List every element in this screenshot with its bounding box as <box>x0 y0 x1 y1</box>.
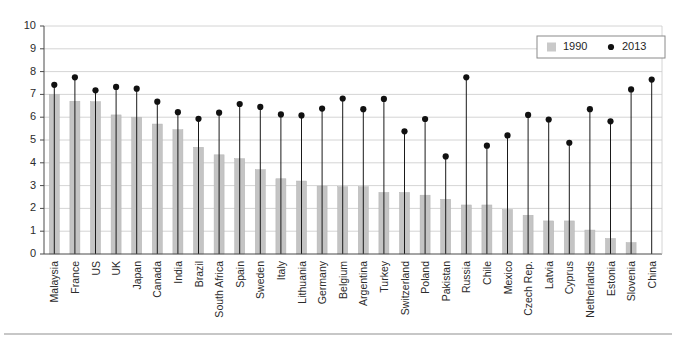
x-tick-label-italy: Italy <box>275 260 287 280</box>
data-point-2013 <box>566 140 572 146</box>
stems-group <box>54 77 651 254</box>
y-tick-label: 7 <box>30 87 36 99</box>
data-point-2013 <box>113 84 119 90</box>
data-point-2013 <box>51 82 57 88</box>
y-tick-label: 2 <box>30 201 36 213</box>
data-point-2013 <box>381 96 387 102</box>
stem-and-bar-chart: 109876543210 MalaysiaFranceUSUKJapanCana… <box>0 0 676 341</box>
x-tick-label-slovenia: Slovenia <box>625 261 637 301</box>
x-tick-label-us: US <box>90 261 102 276</box>
x-axis-ticks: MalaysiaFranceUSUKJapanCanadaIndiaBrazil… <box>48 260 657 317</box>
x-tick-label-czech-rep: Czech Rep. <box>522 261 534 316</box>
data-point-2013 <box>525 112 531 118</box>
data-point-2013 <box>237 101 243 107</box>
data-point-2013 <box>360 106 366 112</box>
x-tick-label-france: France <box>69 261 81 294</box>
data-point-2013 <box>443 153 449 159</box>
data-point-2013 <box>175 109 181 115</box>
data-point-2013 <box>134 86 140 92</box>
x-tick-label-latvia: Latvia <box>543 261 555 289</box>
y-axis-ticks: 109876543210 <box>24 19 44 259</box>
x-tick-label-canada: Canada <box>151 261 163 298</box>
data-point-2013 <box>257 104 263 110</box>
x-tick-label-lithuania: Lithuania <box>296 261 308 304</box>
x-tick-label-estonia: Estonia <box>605 261 617 296</box>
data-point-2013 <box>484 143 490 149</box>
x-tick-label-argentina: Argentina <box>357 261 369 306</box>
x-tick-label-india: India <box>172 261 184 284</box>
data-point-2013 <box>607 118 613 124</box>
x-tick-label-turkey: Turkey <box>378 260 390 292</box>
x-tick-label-switzerland: Switzerland <box>399 261 411 315</box>
data-point-2013 <box>587 106 593 112</box>
data-point-2013 <box>72 74 78 80</box>
data-point-2013 <box>401 128 407 134</box>
x-tick-label-germany: Germany <box>316 260 328 304</box>
x-tick-label-sweden: Sweden <box>254 261 266 299</box>
data-point-2013 <box>649 76 655 82</box>
x-tick-label-netherlands: Netherlands <box>584 261 596 318</box>
x-tick-label-cyprus: Cyprus <box>563 261 575 294</box>
y-tick-label: 4 <box>30 156 36 168</box>
y-tick-label: 10 <box>24 19 36 31</box>
x-tick-label-poland: Poland <box>419 261 431 294</box>
legend-label-1990: 1990 <box>563 40 587 52</box>
chart-container: 109876543210 MalaysiaFranceUSUKJapanCana… <box>0 0 676 341</box>
legend-swatch-1990 <box>547 43 556 52</box>
x-tick-label-brazil: Brazil <box>193 261 205 287</box>
y-tick-label: 3 <box>30 179 36 191</box>
data-point-2013 <box>504 132 510 138</box>
x-tick-label-south-africa: South Africa <box>213 261 225 318</box>
data-point-2013 <box>92 87 98 93</box>
y-tick-label: 9 <box>30 42 36 54</box>
legend-marker-2013 <box>608 44 614 50</box>
x-tick-label-uk: UK <box>110 261 122 276</box>
data-point-2013 <box>340 95 346 101</box>
data-point-2013 <box>546 116 552 122</box>
x-tick-label-mexico: Mexico <box>502 261 514 294</box>
data-point-2013 <box>463 74 469 80</box>
data-point-2013 <box>319 105 325 111</box>
x-tick-label-malaysia: Malaysia <box>48 261 60 303</box>
x-tick-label-japan: Japan <box>131 261 143 290</box>
x-tick-label-spain: Spain <box>234 261 246 288</box>
chart-legend: 19902013 <box>537 36 665 58</box>
y-tick-label: 1 <box>30 224 36 236</box>
data-point-2013 <box>298 112 304 118</box>
data-point-2013 <box>278 111 284 117</box>
y-tick-label: 0 <box>30 247 36 259</box>
data-point-2013 <box>216 110 222 116</box>
x-tick-label-pakistan: Pakistan <box>440 261 452 301</box>
legend-label-2013: 2013 <box>622 40 646 52</box>
x-tick-label-chile: Chile <box>481 261 493 285</box>
data-point-2013 <box>422 116 428 122</box>
y-tick-label: 5 <box>30 133 36 145</box>
data-point-2013 <box>195 116 201 122</box>
data-point-2013 <box>628 86 634 92</box>
x-tick-label-belgium: Belgium <box>337 261 349 299</box>
data-point-2013 <box>154 99 160 105</box>
x-tick-label-russia: Russia <box>460 261 472 293</box>
y-tick-label: 6 <box>30 110 36 122</box>
x-tick-label-china: China <box>646 261 658 289</box>
y-tick-label: 8 <box>30 65 36 77</box>
